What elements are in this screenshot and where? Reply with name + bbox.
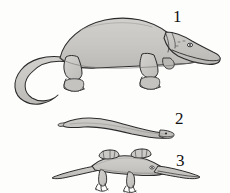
animal-3-rear-limb (99, 170, 107, 186)
figure-svg (0, 0, 230, 193)
animal-2-body (63, 118, 170, 138)
figure-plate (0, 0, 230, 193)
figure-label-3: 3 (176, 152, 185, 169)
animal-3-front-horn (131, 149, 151, 158)
animal-3-front-limb (127, 172, 135, 188)
animal-1-group (15, 18, 220, 104)
animal-2-group (58, 118, 174, 138)
animal-1-front-limb (140, 53, 158, 78)
figure-label-1: 1 (173, 8, 182, 25)
animal-2-eye (165, 132, 167, 134)
animal-3-rear-horn (99, 150, 119, 159)
animal-1-forelimb-tip (163, 58, 175, 69)
animal-3-pupil (151, 167, 153, 169)
animal-1-front-foot-pad (140, 77, 160, 90)
animal-1-rear-limb (64, 56, 82, 81)
figure-label-2: 2 (175, 110, 184, 127)
animal-1-pupil (189, 44, 191, 46)
animal-1-tail (15, 57, 68, 105)
animal-1-rear-foot-pad (64, 79, 84, 92)
